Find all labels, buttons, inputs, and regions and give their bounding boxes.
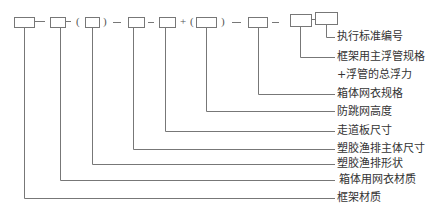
open-paren-symbol: (	[76, 15, 80, 27]
close-paren-symbol-2: )	[221, 15, 225, 27]
label-anti-jump-height: 防跳网高度	[337, 106, 392, 118]
plus-symbol: +	[180, 15, 186, 27]
label-float-pipe-spec: 框架用主浮管规格	[337, 51, 425, 63]
label-raft-main-size: 塑胶渔排主体尺寸	[337, 143, 425, 155]
label-walkway-size: 走道板尺寸	[337, 125, 392, 137]
code-box-7-cage-net-spec	[249, 18, 268, 28]
leader-standard-no	[327, 25, 336, 38]
close-paren-symbol: )	[103, 15, 107, 27]
leader-frame-material	[25, 28, 336, 199]
leader-float-pipe-spec	[301, 27, 336, 58]
label-cage-net-spec: 箱体网衣规格	[337, 88, 403, 100]
leader-anti-jump-height	[207, 28, 336, 112]
leader-cage-net-spec	[259, 28, 336, 95]
open-paren-symbol-2: (	[190, 15, 194, 27]
code-box-8-float-pipe-spec	[291, 15, 312, 27]
code-box-2-net-material	[51, 18, 66, 28]
code-structure-diagram: ( ) + ( ) 执行标准编号 框架用主浮管规格 +浮管的总浮力 箱体网衣规格…	[0, 0, 431, 214]
label-net-material: 箱体用网衣材质	[339, 174, 416, 186]
code-box-1-frame-material	[15, 18, 35, 28]
code-box-5-walkway-size	[160, 18, 176, 28]
label-total-buoyancy: +浮管的总浮力	[337, 69, 412, 81]
leader-walkway-size	[166, 28, 336, 132]
leader-net-material	[61, 28, 336, 181]
code-box-4-raft-main-size	[129, 18, 145, 28]
label-frame-material: 框架材质	[337, 192, 381, 204]
label-standard-no: 执行标准编号	[337, 31, 403, 43]
code-box-3-raft-shape	[86, 18, 100, 28]
code-box-9-standard-no	[316, 13, 338, 25]
leader-raft-shape	[93, 28, 336, 165]
code-box-6-anti-jump-height	[197, 18, 217, 28]
label-raft-shape: 塑胶渔排形状	[337, 158, 403, 170]
